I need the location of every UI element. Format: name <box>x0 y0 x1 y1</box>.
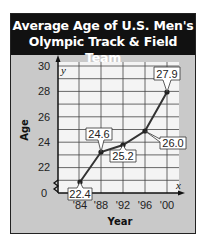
y-axis-label: Age <box>19 119 30 141</box>
x-tick: '92 <box>116 199 130 211</box>
x-axis-variable: x <box>175 179 181 191</box>
x-axis-arrow-icon <box>178 191 185 196</box>
plot-area <box>58 62 179 193</box>
y-tick: 30 <box>38 60 50 72</box>
x-tick: '84 <box>73 199 87 211</box>
y-axis-arrow-icon <box>56 55 61 62</box>
y-tick: 28 <box>38 85 50 97</box>
data-label: 24.6 <box>88 128 109 140</box>
x-tick: '00 <box>160 199 174 211</box>
y-axis-variable: y <box>60 64 66 76</box>
data-label: 25.2 <box>112 150 133 162</box>
y-tick: 0 <box>41 187 47 199</box>
data-label: 27.9 <box>156 68 177 80</box>
y-tick: 26 <box>38 111 50 123</box>
y-tick: 22 <box>38 161 50 173</box>
chart-svg: y x 30 28 26 24 22 0 Age '84 '88 '92 '96… <box>0 0 206 241</box>
y-tick: 24 <box>38 136 50 148</box>
data-label: 26.0 <box>162 137 183 149</box>
x-axis-label: Year <box>107 216 133 227</box>
x-tick-labels: '84 '88 '92 '96 '00 <box>73 199 174 211</box>
x-tick: '96 <box>138 199 152 211</box>
data-label: 22.4 <box>69 188 90 200</box>
x-tick: '88 <box>94 199 108 211</box>
y-tick-labels: 30 28 26 24 22 0 <box>38 60 50 199</box>
